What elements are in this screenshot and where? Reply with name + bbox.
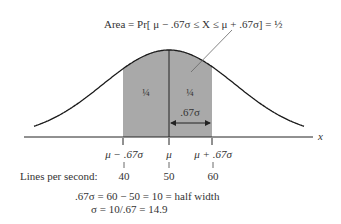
normal-distribution-diagram: x ¼ ¼ .67σ Area = Pr[ μ − .67σ ≤ X ≤ μ +… [0, 0, 341, 224]
tick-label-right-symbol: μ + .67σ [193, 148, 232, 160]
tick-label-mean-symbol: μ [165, 148, 172, 160]
tick-label-left-symbol: μ − .67σ [104, 148, 143, 160]
tick-value-50: 50 [164, 170, 176, 182]
x-axis-label: x [317, 130, 323, 142]
lines-per-second-label: Lines per second: [20, 170, 98, 182]
equation-sigma: σ = 10/.67 = 14.9 [91, 203, 168, 215]
tick-value-40: 40 [119, 170, 131, 182]
half-width-label: .67σ [180, 106, 200, 118]
tick-value-60: 60 [208, 170, 220, 182]
equation-half-width: .67σ = 60 − 50 = 10 = half width [75, 190, 220, 202]
area-annotation: Area = Pr[ μ − .67σ ≤ X ≤ μ + .67σ] = ½ [104, 18, 282, 30]
left-quarter-label: ¼ [142, 87, 150, 98]
right-quarter-label: ¼ [186, 87, 194, 98]
